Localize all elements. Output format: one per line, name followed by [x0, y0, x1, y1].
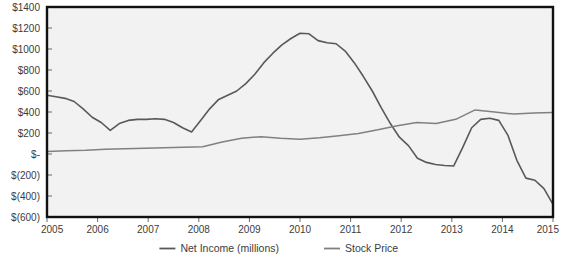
plot-area-background [47, 7, 553, 217]
y-axis-tick-label: $(600) [11, 212, 40, 223]
line-chart: $1400$1200$1000$800$600$400$200$-$(200)$… [0, 0, 566, 264]
y-axis-tick-label: $(200) [11, 170, 40, 181]
x-axis-tick-label: 2008 [188, 224, 211, 235]
x-axis-tick-label: 2010 [289, 224, 312, 235]
y-axis-tick-label: $(400) [11, 191, 40, 202]
x-axis-tick-label: 2011 [340, 224, 362, 235]
y-axis-tick-label: $800 [18, 65, 41, 76]
x-axis-tick-label: 2005 [41, 224, 64, 235]
y-axis-tick-label: $1000 [12, 44, 40, 55]
y-axis-tick-label: $1400 [12, 2, 40, 13]
x-axis-tick-label: 2015 [537, 224, 560, 235]
chart-legend: Net Income (millions)Stock Price [159, 242, 398, 254]
y-axis-tick-label: $1200 [12, 23, 40, 34]
legend-item-label: Net Income (millions) [180, 242, 279, 254]
x-axis-tick-label: 2013 [441, 224, 464, 235]
y-axis-tick-label: $600 [18, 86, 41, 97]
legend-item-label: Stock Price [345, 242, 398, 254]
y-axis-tick-label: $200 [18, 128, 41, 139]
y-axis-tick-label: $400 [18, 107, 41, 118]
x-axis-tick-label: 2007 [137, 224, 160, 235]
x-axis-tick-label: 2006 [86, 224, 109, 235]
y-axis-tick-label: $- [31, 149, 40, 160]
x-axis-tick-label: 2009 [238, 224, 261, 235]
x-axis-tick-label: 2014 [491, 224, 514, 235]
x-axis-tick-label: 2012 [390, 224, 413, 235]
chart-container: $1400$1200$1000$800$600$400$200$-$(200)$… [0, 0, 566, 264]
